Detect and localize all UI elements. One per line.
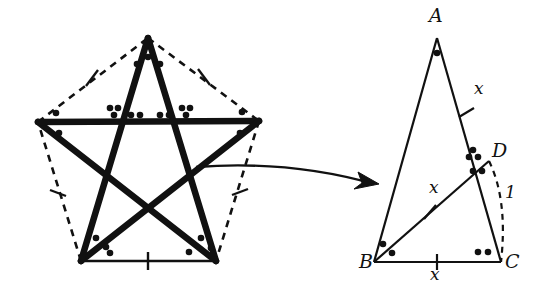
one-dot-angle bbox=[389, 250, 396, 257]
vertex-label-A: A bbox=[429, 6, 443, 25]
one-dot-angle bbox=[107, 250, 114, 257]
star-chord-right-to-bottom-left bbox=[81, 121, 259, 261]
tick-on-BD bbox=[424, 205, 436, 219]
one-dot-angle bbox=[145, 54, 152, 61]
two-dot-angle bbox=[475, 249, 482, 256]
one-dot-angle bbox=[186, 249, 193, 256]
three-dot-angle bbox=[107, 105, 114, 112]
three-dot-angle bbox=[470, 147, 477, 154]
three-dot-angle bbox=[466, 154, 473, 161]
length-label-x-on-AC: x bbox=[474, 80, 484, 97]
star-chord-left-to-right bbox=[38, 121, 259, 122]
vertex-label-B: B bbox=[359, 252, 373, 271]
one-dot-angle bbox=[237, 130, 244, 137]
triangle-diagram bbox=[374, 38, 503, 270]
length-label-one-on-DC: 1 bbox=[505, 184, 516, 201]
one-dot-angle bbox=[134, 61, 141, 68]
tick-on-AC bbox=[459, 108, 474, 117]
star-chord-bottom-right-to-left bbox=[38, 122, 216, 261]
pentagram-star-chords bbox=[38, 38, 259, 261]
three-dot-angle bbox=[183, 112, 190, 119]
vertex-label-D: D bbox=[492, 141, 507, 160]
one-dot-angle bbox=[56, 130, 63, 137]
one-dot-angle bbox=[53, 110, 60, 117]
one-dot-angle bbox=[198, 235, 205, 242]
length-label-x-on-BC: x bbox=[430, 266, 440, 283]
three-dot-angle bbox=[187, 105, 194, 112]
pentagon-edge-top-right bbox=[148, 38, 259, 121]
two-dot-angle bbox=[157, 112, 164, 119]
triangle-side-AB bbox=[374, 38, 437, 262]
one-dot-angle bbox=[208, 245, 215, 252]
three-dot-angle bbox=[179, 105, 186, 112]
tick-upper-right-edge bbox=[198, 69, 210, 85]
two-dot-angle bbox=[128, 112, 135, 119]
one-dot-angle bbox=[239, 109, 246, 116]
three-dot-angle bbox=[475, 154, 482, 161]
one-dot-angle bbox=[103, 244, 110, 251]
star-chord-bottom-left-to-top bbox=[81, 38, 148, 261]
one-dot-angle bbox=[380, 241, 387, 248]
vertex-label-C: C bbox=[505, 252, 520, 271]
one-dot-angle bbox=[93, 235, 100, 242]
tick-upper-left-edge bbox=[86, 70, 98, 86]
callout-arrow-shaft bbox=[196, 165, 374, 184]
one-dot-angle bbox=[434, 50, 441, 57]
pentagram-diagram bbox=[0, 0, 549, 296]
length-label-x-on-BD: x bbox=[429, 179, 439, 196]
star-chord-top-to-bottom-right bbox=[148, 38, 216, 261]
geometry-figure: A B C D x x x 1 bbox=[0, 0, 549, 296]
two-dot-angle bbox=[166, 112, 173, 119]
pentagon-edge-top-left bbox=[38, 38, 148, 122]
one-dot-angle bbox=[157, 61, 164, 68]
three-dot-angle bbox=[115, 105, 122, 112]
two-dot-angle bbox=[479, 168, 486, 175]
callout-arrow bbox=[196, 165, 379, 189]
tick-lower-right-edge bbox=[232, 189, 248, 195]
three-dot-angle bbox=[111, 112, 118, 119]
pentagon-tick-marks bbox=[50, 69, 248, 270]
two-dot-angle bbox=[485, 249, 492, 256]
tick-lower-left-edge bbox=[50, 190, 66, 196]
two-dot-angle bbox=[470, 168, 477, 175]
two-dot-angle bbox=[137, 112, 144, 119]
